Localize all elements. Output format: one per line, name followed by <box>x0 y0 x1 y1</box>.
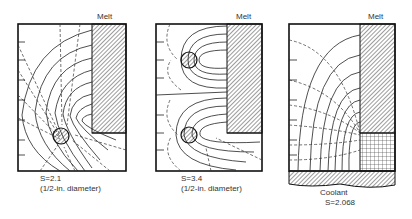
panel-two-pipes: Melt S=3.4 (1/2-in. diameter) <box>136 0 276 219</box>
melt-label: Melt <box>368 12 383 22</box>
cooling-pipe-lower-icon <box>181 127 197 143</box>
flux-plot-coolant-plate <box>270 0 412 219</box>
melt-label: Melt <box>236 12 251 22</box>
pipe-diameter-caption: (1/2-in. diameter) <box>40 184 101 194</box>
coolant-plate <box>289 171 395 187</box>
melt-label: Melt <box>97 12 112 22</box>
coolant-label: Coolant <box>320 188 348 198</box>
panel-single-pipe: Melt S=2.1 (1/2-in. diameter) <box>0 0 140 219</box>
pipe-diameter-caption: (1/2-in. diameter) <box>181 184 242 194</box>
cooling-pipe-icon <box>53 128 69 144</box>
shape-factor-label: S=2.068 <box>325 198 355 208</box>
shape-factor-label: S=3.4 <box>181 174 202 184</box>
cooling-pipe-upper-icon <box>181 52 197 68</box>
shape-factor-label: S=2.1 <box>40 174 61 184</box>
panel-coolant-plate: Melt Coolant S=2.068 <box>270 0 410 219</box>
